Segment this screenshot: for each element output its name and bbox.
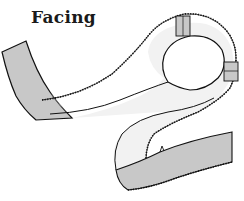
right-seam-patch bbox=[224, 62, 238, 81]
facing-illustration bbox=[0, 0, 244, 201]
left-strip-end bbox=[2, 41, 72, 120]
